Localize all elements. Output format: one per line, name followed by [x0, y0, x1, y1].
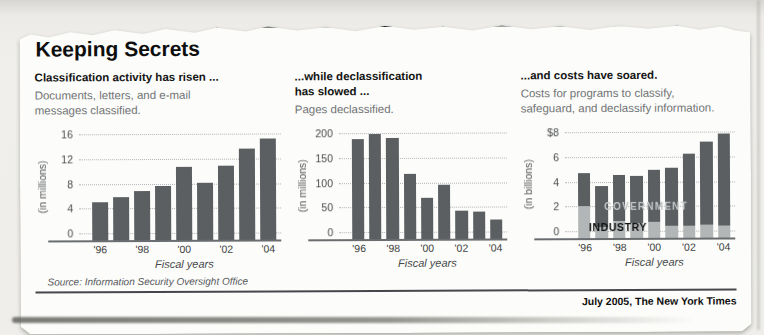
industry-series-label: INDUSTRY: [589, 221, 647, 233]
bar: [455, 210, 467, 238]
bar-segment-industry: [648, 222, 661, 238]
bar: [421, 198, 433, 239]
x-tick-label: '98: [613, 241, 627, 254]
x-tick-label: '00: [420, 242, 434, 255]
plot-area: 050100150200'96'98'00'02'04Fiscal years: [339, 130, 508, 269]
x-axis-title: Fiscal years: [79, 257, 281, 270]
bars: [352, 133, 502, 239]
chart-costs: ...and costs have soared. Costs for prog…: [521, 67, 736, 268]
chart-heading-declassification: ...while declassification has slowed ...: [295, 68, 507, 99]
bar-segment-government: [648, 170, 661, 222]
x-tick-label: '98: [386, 242, 400, 255]
bar: [155, 186, 171, 240]
stacked-bar-chart-costs: (in billions)0246$8GOVERNMENTINDUSTRY'96…: [521, 129, 736, 268]
bar: [438, 185, 450, 239]
bar: [113, 197, 129, 240]
bar: [404, 173, 417, 238]
bar: [700, 141, 713, 237]
x-tick-label: '02: [682, 241, 696, 254]
bar-segment-industry: [683, 225, 695, 237]
x-tick-label: [666, 241, 677, 254]
bar: [369, 134, 382, 239]
y-tick-label: 8: [44, 178, 73, 191]
x-tick-label: [155, 243, 171, 256]
x-tick-labels: '96'98'00'02'04: [92, 242, 281, 256]
y-tick-label: 200: [304, 127, 333, 140]
government-series-label: GOVERNMENT: [604, 201, 688, 212]
x-tick-labels: '96'98'00'02'04: [578, 240, 735, 254]
bars: [92, 139, 276, 240]
x-tick-label: [197, 243, 213, 256]
chart-subtitle-classification: Documents, letters, and e-mail messages …: [35, 87, 281, 118]
x-tick-label: [439, 242, 449, 255]
charts-row: Classification activity has risen ... Do…: [35, 67, 737, 270]
y-tick-label: 0: [530, 225, 559, 238]
top-rule: [34, 22, 735, 28]
x-tick-label: [632, 241, 643, 254]
y-tick-label: 0: [44, 227, 73, 240]
bar-segment-government: [578, 173, 591, 206]
x-tick-labels: '96'98'00'02'04: [352, 241, 507, 255]
plot-grid: 0246$8GOVERNMENTINDUSTRY: [565, 129, 735, 238]
plot-area: 0246$8GOVERNMENTINDUSTRY'96'98'00'02'04F…: [565, 129, 736, 268]
y-tick-label: $8: [530, 126, 559, 139]
bar-segment-government: [717, 134, 730, 226]
x-tick-label: [473, 242, 483, 255]
y-tick-label: 4: [44, 203, 73, 216]
x-tick-label: [113, 243, 129, 256]
x-tick-label: '98: [134, 243, 150, 256]
x-axis-title: Fiscal years: [339, 256, 507, 269]
bar-segment-government: [665, 167, 678, 225]
chart-subtitle-costs: Costs for programs to classify, safeguar…: [521, 85, 735, 115]
x-tick-label: '02: [218, 243, 234, 256]
bar: [260, 139, 276, 240]
x-tick-label: [239, 243, 255, 256]
x-tick-label: '04: [717, 240, 731, 253]
bar: [386, 138, 399, 239]
bar-segment-government: [683, 154, 696, 226]
y-tick-label: 150: [304, 152, 333, 165]
bar-chart-classification: (in millions)0481216'96'98'00'02'04Fisca…: [35, 131, 282, 270]
y-tick-label: 16: [44, 128, 73, 141]
source-note: Source: Information Security Oversight O…: [47, 273, 736, 287]
y-tick-label: 0: [304, 226, 333, 239]
x-tick-label: '96: [578, 241, 592, 254]
bar-segment-industry: [700, 224, 712, 237]
y-tick-label: 2: [530, 200, 559, 213]
x-tick-label: '96: [352, 242, 366, 255]
bar: [92, 202, 108, 240]
x-tick-label: '04: [489, 241, 503, 254]
bar: [490, 220, 502, 239]
bar: [239, 148, 255, 239]
bar-segment-industry: [665, 226, 677, 238]
y-tick-label: 6: [530, 151, 559, 164]
bar-segment-government: [613, 175, 626, 221]
chart-heading-classification: Classification activity has risen ...: [35, 69, 281, 85]
bar-segment-government: [630, 176, 643, 223]
bar-segment-industry: [718, 225, 730, 237]
bar: [352, 139, 365, 239]
page-title: Keeping Secrets: [35, 34, 735, 61]
plot-area: 0481216'96'98'00'02'04Fiscal years: [79, 131, 282, 270]
x-tick-label: '00: [647, 241, 661, 254]
bar: [134, 191, 150, 240]
x-tick-label: '96: [92, 243, 108, 256]
bar: [176, 167, 192, 240]
plot-grid: 050100150200: [339, 130, 507, 239]
x-tick-label: '00: [176, 243, 192, 256]
bar-chart-declassification: (in millions)050100150200'96'98'00'02'04…: [295, 130, 508, 269]
credit-line: July 2005, The New York Times: [36, 294, 737, 309]
gridline: [79, 133, 281, 135]
y-tick-label: 12: [44, 153, 73, 166]
x-tick-label: '04: [260, 242, 276, 255]
bar: [197, 182, 213, 239]
y-tick-label: 4: [530, 176, 559, 189]
y-tick-label: 50: [304, 201, 333, 214]
newspaper-clipping: Keeping Secrets Classification activity …: [19, 22, 751, 334]
y-tick-label: 100: [304, 177, 333, 190]
plot-grid: 0481216: [79, 131, 281, 240]
x-tick-label: [597, 241, 608, 254]
x-tick-label: [701, 241, 712, 254]
chart-heading-costs: ...and costs have soared.: [521, 67, 735, 83]
